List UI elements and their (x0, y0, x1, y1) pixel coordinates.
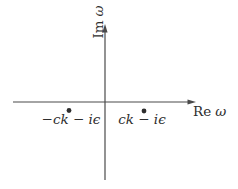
omega-symbol: ω (90, 5, 106, 16)
real-axis-label: Reω (193, 103, 226, 119)
real-axis-label-prefix: Re (193, 103, 211, 119)
omega-symbol: ω (215, 103, 226, 119)
complex-omega-plane-figure: Imω Reω −ck − iϵ ck − iϵ (0, 0, 238, 189)
imaginary-axis-label: Imω (90, 3, 106, 41)
axes-drawing (0, 0, 238, 189)
pole-label-positive: ck − iϵ (112, 111, 172, 127)
pole-label-negative: −ck − iϵ (41, 111, 101, 127)
imaginary-axis-label-prefix: Im (90, 20, 106, 38)
